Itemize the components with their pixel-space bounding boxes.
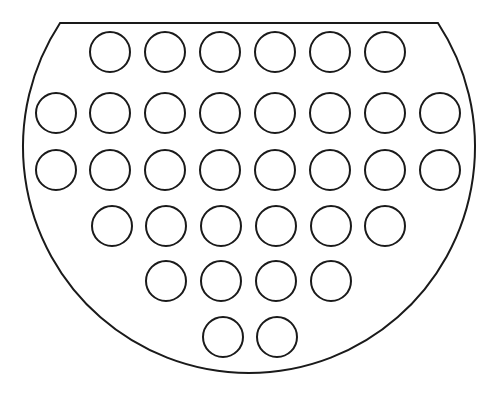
hole-r1-c2 [145, 32, 185, 72]
hole-r3-c7 [365, 150, 405, 190]
hole-r2-c8 [420, 93, 460, 133]
hole-r2-c2 [90, 93, 130, 133]
hole-r1-c5 [310, 32, 350, 72]
hole-grid [36, 32, 460, 357]
hole-r3-c4 [200, 150, 240, 190]
hole-r2-c5 [255, 93, 295, 133]
hole-r5-c3 [256, 261, 296, 301]
hole-r5-c1 [146, 261, 186, 301]
hole-r3-c2 [90, 150, 130, 190]
hole-r1-c6 [365, 32, 405, 72]
hole-r2-c4 [200, 93, 240, 133]
hole-r3-c8 [420, 150, 460, 190]
hole-r4-c2 [146, 206, 186, 246]
hole-r3-c6 [310, 150, 350, 190]
tube-sheet-diagram [0, 0, 495, 394]
hole-r3-c3 [145, 150, 185, 190]
hole-r2-c7 [365, 93, 405, 133]
hole-r6-c2 [257, 317, 297, 357]
hole-r4-c1 [92, 206, 132, 246]
hole-r4-c4 [256, 206, 296, 246]
hole-r3-c1 [36, 150, 76, 190]
hole-r1-c4 [255, 32, 295, 72]
hole-r1-c1 [90, 32, 130, 72]
hole-r2-c6 [310, 93, 350, 133]
hole-r2-c1 [36, 93, 76, 133]
hole-r5-c4 [311, 261, 351, 301]
hole-r6-c1 [203, 317, 243, 357]
hole-r2-c3 [145, 93, 185, 133]
hole-r3-c5 [255, 150, 295, 190]
hole-r1-c3 [200, 32, 240, 72]
hole-r4-c6 [365, 206, 405, 246]
plate-outline [23, 23, 475, 373]
hole-r4-c5 [311, 206, 351, 246]
hole-r5-c2 [201, 261, 241, 301]
hole-r4-c3 [201, 206, 241, 246]
